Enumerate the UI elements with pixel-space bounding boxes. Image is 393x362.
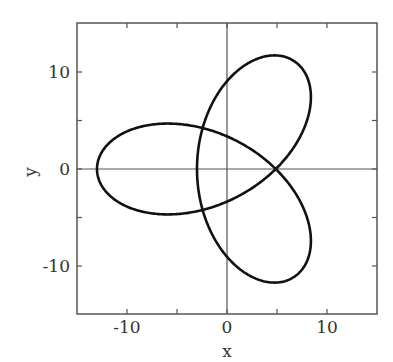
ytick-label: 0 <box>59 159 70 179</box>
y-axis-label: y <box>20 167 40 178</box>
ytick-label: -10 <box>43 256 70 276</box>
xtick-label: -10 <box>113 317 140 337</box>
chart-container: -10 0 10 10 0 -10 x y <box>0 0 393 362</box>
plot-area: -10 0 10 10 0 -10 x y <box>0 0 393 362</box>
x-axis-label: x <box>222 341 232 361</box>
xtick-label: 0 <box>222 317 233 337</box>
ytick-label: 10 <box>48 62 70 82</box>
xtick-label: 10 <box>316 317 338 337</box>
